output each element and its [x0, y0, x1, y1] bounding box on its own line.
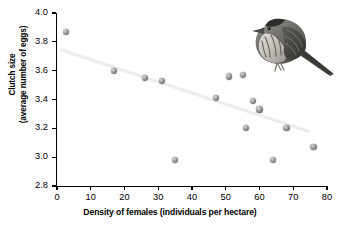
- x-tick-mark: [326, 186, 327, 190]
- y-tick-label: 3.0: [8, 151, 48, 161]
- data-point: [256, 106, 262, 112]
- x-tick-mark: [191, 186, 192, 190]
- x-tick-mark: [158, 186, 159, 190]
- y-tick-mark: [52, 99, 56, 100]
- x-tick-mark: [56, 186, 57, 190]
- data-point: [283, 125, 289, 131]
- x-tick-mark: [293, 186, 294, 190]
- data-point: [226, 73, 232, 79]
- data-point: [213, 95, 219, 101]
- y-tick-label: 4.0: [8, 7, 48, 17]
- data-point: [310, 144, 316, 150]
- data-point: [159, 78, 165, 84]
- data-point: [250, 98, 256, 104]
- x-axis-title: Density of females (individuals per hect…: [0, 207, 340, 217]
- y-tick-label: 3.2: [8, 122, 48, 132]
- x-tick-mark: [225, 186, 226, 190]
- y-tick-mark: [52, 157, 56, 158]
- y-tick-label: 3.8: [8, 36, 48, 46]
- y-tick-mark: [52, 12, 56, 13]
- x-tick-mark: [90, 186, 91, 190]
- data-point: [63, 29, 69, 35]
- y-tick-label: 3.6: [8, 65, 48, 75]
- y-tick-mark: [52, 128, 56, 129]
- y-tick-mark: [52, 70, 56, 71]
- x-tick-label: 80: [307, 192, 340, 202]
- sparrow-bird-illustration: [244, 6, 336, 78]
- x-tick-mark: [124, 186, 125, 190]
- y-tick-label: 2.8: [8, 180, 48, 190]
- scatter-plot-figure: Clutch size (average number of eggs) 2.8…: [0, 0, 340, 227]
- data-point: [142, 75, 148, 81]
- x-tick-mark: [259, 186, 260, 190]
- y-tick-mark: [52, 41, 56, 42]
- y-tick-label: 3.4: [8, 94, 48, 104]
- y-tick-mark: [52, 185, 56, 186]
